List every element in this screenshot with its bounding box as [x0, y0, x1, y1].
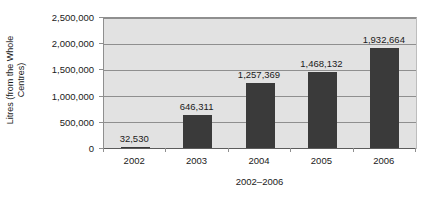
x-axis-title: 2002–2006: [103, 176, 416, 187]
x-axis-tick-mark: [165, 148, 166, 152]
x-axis-tick-mark: [228, 148, 229, 152]
bar-chart: Litres (from the Whole Centres) 0500,000…: [0, 0, 426, 198]
gridline: [104, 18, 416, 19]
bar-value-label: 1,257,369: [238, 69, 280, 80]
y-axis-tick-label: 0: [89, 143, 94, 154]
y-axis-tick-mark: [99, 17, 104, 18]
x-axis-line: [103, 148, 416, 149]
x-axis-tick-mark: [103, 148, 104, 152]
x-axis-tick-mark: [415, 148, 416, 152]
x-axis-tick-mark: [353, 148, 354, 152]
x-axis-tick-label: 2002: [124, 155, 145, 166]
y-axis-title-line-1: Litres (from the Whole: [5, 36, 16, 125]
bar-value-label: 1,932,664: [363, 34, 405, 45]
bar-value-label: 32,530: [120, 133, 149, 144]
bar: [308, 72, 337, 149]
bar-value-label: 646,311: [180, 101, 214, 112]
y-axis-tick-mark: [99, 96, 104, 97]
y-axis-title-line-2: Centres): [16, 36, 27, 125]
x-axis-tick-label: 2004: [248, 155, 269, 166]
y-axis-line: [103, 17, 104, 149]
bar: [246, 83, 275, 149]
x-axis-tick-label: 2006: [373, 155, 394, 166]
bar-value-label: 1,468,132: [300, 58, 342, 69]
x-axis-tick-label: 2003: [186, 155, 207, 166]
bar: [183, 115, 212, 149]
y-axis-tick-label: 500,000: [60, 116, 94, 127]
x-axis-tick-mark: [290, 148, 291, 152]
y-axis-tick-label: 2,000,000: [52, 38, 94, 49]
y-axis-tick-mark: [99, 122, 104, 123]
y-axis-tick-labels: 0500,0001,000,0001,500,0002,000,0002,500…: [28, 11, 100, 153]
y-axis-tick-label: 2,500,000: [52, 12, 94, 23]
y-axis-tick-mark: [99, 69, 104, 70]
y-axis-tick-mark: [99, 43, 104, 44]
bar: [370, 48, 399, 149]
y-axis-tick-label: 1,000,000: [52, 90, 94, 101]
y-axis-tick-label: 1,500,000: [52, 64, 94, 75]
x-axis-tick-label: 2005: [311, 155, 332, 166]
